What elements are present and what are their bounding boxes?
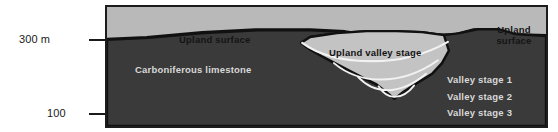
axis-tick-label-300: 300 m xyxy=(19,33,50,45)
axis-tick-label-100: 100 xyxy=(47,107,66,119)
label-upland-surface-left: Upland surface xyxy=(179,34,250,45)
label-valley-stage-3: Valley stage 3 xyxy=(447,107,512,118)
label-valley-stage-2: Valley stage 2 xyxy=(447,91,512,102)
label-valley-stage-1: Valley stage 1 xyxy=(447,74,512,85)
label-carboniferous-limestone: Carboniferous limestone xyxy=(135,64,252,75)
cross-section-panel: Upland surface Upland valley stage Uplan… xyxy=(105,5,548,128)
cross-section-figure: 300 m 100 Upland surface xyxy=(0,0,558,132)
label-upland-valley-stage: Upland valley stage xyxy=(329,47,422,58)
label-upland-surface-right-line2: surface xyxy=(486,35,542,46)
label-upland-surface-right-line1: Upland xyxy=(486,24,542,35)
label-upland-surface-right: Upland surface xyxy=(486,24,542,46)
